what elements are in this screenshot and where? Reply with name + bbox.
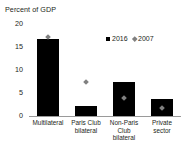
legend-square-marker-icon: [106, 37, 110, 41]
plot-area: [29, 24, 181, 116]
legend-diamond-marker-icon: [132, 37, 137, 42]
bar-2016: [75, 106, 97, 116]
x-category-label: Paris Clubbilateral: [67, 119, 105, 134]
chart-container: Percent of GDP 20 15 10 5 0 Multilateral…: [0, 0, 184, 149]
x-axis-line: [29, 116, 181, 117]
y-tick-label: 10: [15, 66, 23, 74]
bar-2016: [37, 39, 59, 116]
x-axis-category-labels: Multilateral Paris Clubbilateral Non-Par…: [29, 119, 181, 149]
x-category-label: Non-ParisClubbilateral: [105, 119, 143, 142]
y-tick-label: 5: [19, 89, 23, 97]
chart-legend: 2016 2007: [106, 35, 154, 43]
y-axis-tick-labels: 20 15 10 5 0: [0, 24, 26, 116]
legend-item-2016: 2016: [106, 35, 128, 43]
marker-2007: [83, 80, 89, 86]
y-tick-label: 0: [19, 112, 23, 120]
x-category-label: Privatesector: [143, 119, 181, 134]
x-category-label: Multilateral: [29, 119, 67, 127]
legend-label: 2007: [138, 35, 154, 43]
legend-label: 2016: [112, 35, 128, 43]
legend-item-2007: 2007: [133, 35, 154, 43]
y-tick-label: 15: [15, 43, 23, 51]
y-axis-title: Percent of GDP: [5, 5, 56, 14]
y-tick-label: 20: [15, 20, 23, 28]
